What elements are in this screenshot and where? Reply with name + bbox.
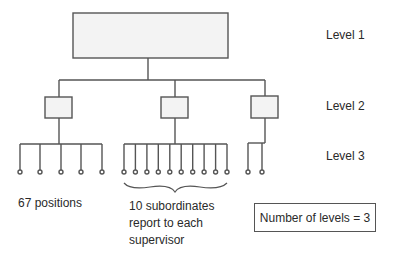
level2-node-middle xyxy=(161,97,188,118)
span-annotation-line2: report to each xyxy=(129,216,203,231)
levels-summary-box: Number of levels = 3 xyxy=(254,203,376,232)
level2-node-left xyxy=(45,97,72,118)
level-2-label: Level 2 xyxy=(326,99,365,114)
span-annotation-line1: 10 subordinates xyxy=(129,199,214,214)
level-1-label: Level 1 xyxy=(326,28,365,43)
span-annotation-line3: supervisor xyxy=(129,233,184,248)
positions-annotation: 67 positions xyxy=(18,196,82,211)
level1-node xyxy=(73,13,228,58)
level2-node-right xyxy=(251,96,278,118)
levels-summary-text: Number of levels = 3 xyxy=(260,211,370,225)
level-3-label: Level 3 xyxy=(326,149,365,164)
